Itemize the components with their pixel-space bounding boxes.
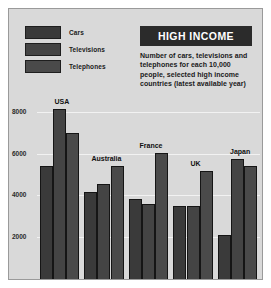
bar-australia-cars: [84, 192, 97, 279]
bar-japan-telephones: [244, 166, 257, 279]
legend-item: Televisions: [25, 43, 145, 56]
y-axis-tick-label: 2000: [12, 233, 38, 240]
chart-description: Number of cars, televisions and telephon…: [140, 51, 252, 88]
bar-uk-televisions: [187, 206, 200, 279]
chart-legend: CarsTelevisionsTelephones: [25, 26, 145, 77]
bar-usa-telephones: [66, 133, 79, 279]
legend-label: Telephones: [69, 63, 106, 70]
bar-japan-televisions: [231, 159, 244, 279]
bar-australia-televisions: [97, 184, 110, 279]
group-label-japan: Japan: [212, 148, 263, 155]
bar-australia-telephones: [111, 166, 124, 279]
group-label-france: France: [123, 142, 180, 149]
gridline: [37, 112, 260, 113]
y-axis-tick-label: 8000: [12, 108, 38, 115]
bar-uk-telephones: [200, 171, 213, 279]
chart-title: HIGH INCOME: [143, 30, 249, 42]
group-label-usa: USA: [34, 98, 91, 105]
legend-swatch: [25, 60, 61, 73]
y-axis-tick-label: 6000: [12, 150, 38, 157]
bar-france-telephones: [155, 153, 168, 280]
chart-figure: 2000400060008000USAAustraliaFranceUKJapa…: [8, 8, 263, 280]
bar-france-televisions: [142, 204, 155, 279]
y-axis-tick-label: 4000: [12, 191, 38, 198]
bar-usa-televisions: [53, 109, 66, 279]
legend-item: Telephones: [25, 60, 145, 73]
title-block: HIGH INCOME Number of cars, televisions …: [140, 26, 252, 88]
legend-item: Cars: [25, 26, 145, 39]
bar-uk-cars: [173, 206, 186, 279]
title-badge: HIGH INCOME: [140, 26, 252, 46]
bar-japan-cars: [218, 235, 231, 279]
legend-swatch: [25, 26, 61, 39]
group-label-uk: UK: [167, 160, 224, 167]
legend-label: Cars: [69, 29, 84, 36]
legend-label: Televisions: [69, 46, 105, 53]
bar-france-cars: [129, 199, 142, 280]
legend-swatch: [25, 43, 61, 56]
bar-usa-cars: [40, 166, 53, 279]
group-label-australia: Australia: [78, 155, 135, 162]
